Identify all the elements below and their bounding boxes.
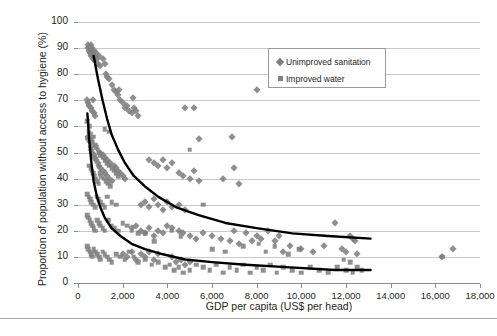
footer-rule — [0, 318, 497, 319]
diamond-marker-icon — [274, 59, 286, 65]
square-marker-icon — [274, 76, 286, 81]
trendlines — [0, 0, 497, 336]
chart-figure: Proportion of population without access … — [0, 0, 497, 336]
legend-item-unimproved-sanitation: Unimproved sanitation — [274, 53, 385, 70]
legend-label-improved-water: Improved water — [286, 74, 345, 84]
chart-legend: Unimproved sanitation Improved water — [268, 48, 386, 88]
legend-item-improved-water: Improved water — [274, 70, 385, 87]
improved-water-trend — [87, 113, 370, 270]
legend-label-unimproved-sanitation: Unimproved sanitation — [286, 57, 371, 67]
